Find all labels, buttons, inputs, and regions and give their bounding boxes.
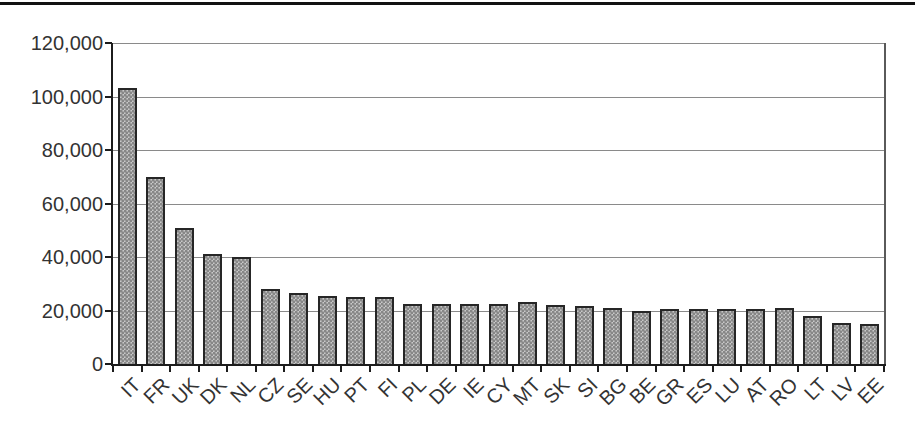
x-tick-mark [283,366,285,372]
x-tick-label-SI: SI [574,374,602,402]
bar-DK [203,254,222,364]
bar-IE [460,304,479,364]
x-tick-label-LT: LT [800,374,830,404]
x-tick-label-EE: EE [854,374,887,407]
y-tick-mark [105,363,112,365]
bar-chart: 020,00040,00060,00080,000100,000120,000 … [0,0,915,426]
bar-PT [346,297,365,364]
figure-page: 020,00040,00060,00080,000100,000120,000 … [0,0,915,426]
x-tick-mark [569,366,571,372]
x-tick-mark [198,366,200,372]
x-tick-mark [312,366,314,372]
x-tick-label-LV: LV [828,374,858,404]
bar-DE [432,304,451,364]
y-tick-label: 60,000 [0,193,103,215]
gridline [113,97,884,98]
bar-BE [632,311,651,365]
bar-LU [717,309,736,364]
gridline [113,150,884,151]
y-tick-label: 80,000 [0,139,103,161]
bar-CZ [261,289,280,364]
x-tick-label-IE: IE [460,374,488,402]
x-tick-label-DE: DE [425,374,459,408]
x-tick-mark [597,366,599,372]
x-tick-label-RO: RO [766,374,801,409]
bar-SE [289,293,308,364]
x-tick-mark [883,366,885,372]
x-tick-mark [226,366,228,372]
x-tick-mark [769,366,771,372]
bar-MT [518,302,537,364]
y-tick-label: 40,000 [0,246,103,268]
y-tick-mark [105,256,112,258]
gridline [113,43,884,44]
y-tick-mark [105,203,112,205]
bar-UK [175,228,194,364]
x-tick-mark [340,366,342,372]
y-tick-mark [105,310,112,312]
x-tick-label-PT: PT [341,374,373,406]
x-tick-label-PL: PL [399,374,430,405]
bar-BG [603,308,622,364]
bar-CY [489,304,508,364]
x-tick-mark [426,366,428,372]
x-tick-mark [540,366,542,372]
y-tick-label: 20,000 [0,300,103,322]
gridline [113,204,884,205]
y-tick-mark [105,96,112,98]
x-tick-mark [712,366,714,372]
bar-GR [660,309,679,364]
x-tick-mark [455,366,457,372]
bar-EE [860,324,879,364]
x-tick-mark [655,366,657,372]
bar-HU [318,296,337,364]
x-tick-label-FI: FI [375,374,402,401]
bar-FI [375,297,394,364]
y-tick-label: 120,000 [0,32,103,54]
bar-PL [403,304,422,364]
x-tick-mark [740,366,742,372]
x-tick-mark [826,366,828,372]
bar-NL [232,257,251,364]
gridline [113,257,884,258]
y-tick-label: 0 [0,353,103,375]
x-tick-mark [854,366,856,372]
bar-AT [746,309,765,364]
bar-FR [146,177,165,364]
x-tick-label-SK: SK [540,374,573,407]
x-tick-label-AT: AT [741,374,772,405]
x-tick-mark [398,366,400,372]
x-tick-mark [797,366,799,372]
x-tick-mark [626,366,628,372]
bar-SK [546,305,565,364]
y-tick-mark [105,42,112,44]
y-tick-mark [105,149,112,151]
x-tick-mark [512,366,514,372]
y-tick-label: 100,000 [0,86,103,108]
bar-ES [689,309,708,364]
plot-right-border [884,43,886,364]
x-tick-mark [369,366,371,372]
x-tick-mark [112,366,114,372]
bar-LT [803,316,822,364]
x-tick-label-IT: IT [118,374,145,401]
bar-SI [575,306,594,364]
x-tick-mark [483,366,485,372]
x-tick-mark [255,366,257,372]
x-tick-mark [141,366,143,372]
x-tick-mark [169,366,171,372]
x-tick-mark [683,366,685,372]
bar-IT [118,88,137,364]
bar-LV [832,323,851,364]
bar-RO [775,308,794,364]
